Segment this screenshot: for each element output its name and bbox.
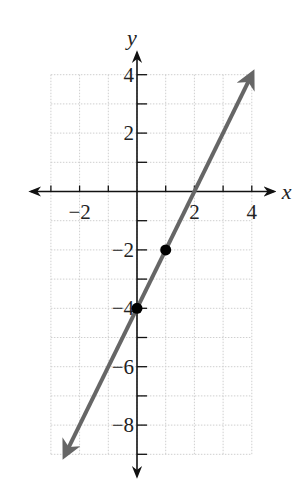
x-tick-label: −2: [68, 200, 90, 224]
coordinate-plane: −22442−2−4−6−8 x y: [0, 0, 301, 499]
y-tick-label: −6: [112, 355, 134, 379]
x-tick-label: 4: [247, 200, 258, 224]
data-point: [132, 303, 143, 314]
y-axis-label: y: [125, 25, 137, 50]
y-tick-label: −2: [112, 238, 134, 262]
y-tick-label: 4: [124, 63, 135, 87]
data-point: [160, 244, 171, 255]
y-tick-label: 2: [124, 121, 135, 145]
line-series: [65, 75, 252, 455]
y-axis: [137, 53, 147, 477]
x-axis: [31, 186, 274, 192]
line-y-equals-2x-minus-4: [65, 75, 252, 455]
y-tick-label: −8: [112, 413, 134, 437]
x-axis-label: x: [281, 179, 292, 204]
